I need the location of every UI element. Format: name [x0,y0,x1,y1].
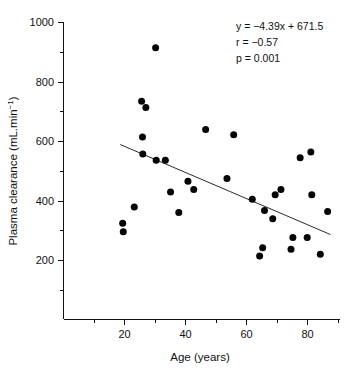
data-point [184,178,191,185]
data-point [261,207,268,214]
data-point [119,220,126,227]
data-point [308,191,315,198]
correlation-coefficient-text: r = −0.57 [236,36,278,48]
data-point [153,157,160,164]
data-point [272,191,279,198]
x-axis-minor-ticks [94,320,338,324]
data-point [162,157,169,164]
y-tick-label-800: 800 [36,76,54,88]
data-point [324,208,331,215]
scatter-plot-figure: 1000 800 600 400 200 20 40 60 80 Age ( [0,0,349,373]
y-axis-title-tail: ) [7,96,19,100]
y-axis-title-base: Plasma clearance (mL.min [7,109,19,245]
plot-canvas: 1000 800 600 400 200 20 40 60 80 Age ( [0,0,349,373]
y-tick-label-200: 200 [36,254,54,266]
x-tick-label-60: 60 [240,328,252,340]
data-point [190,186,197,193]
x-axis-tick-labels: 20 40 60 80 [118,328,313,340]
data-point [142,104,149,111]
axes-group [64,22,341,320]
data-point [269,215,276,222]
data-point [259,244,266,251]
data-point [317,251,324,258]
data-point [297,154,304,161]
x-tick-label-40: 40 [179,328,191,340]
data-point [288,246,295,253]
data-point [175,209,182,216]
x-tick-label-80: 80 [301,328,313,340]
data-points-layer [119,44,331,259]
x-axis-title: Age (years) [170,351,230,363]
statistics-annotation: y = −4.39x + 671.5 r = −0.57 p = 0.001 [236,20,323,64]
x-tick-label-20: 20 [118,328,130,340]
p-value-text: p = 0.001 [236,52,280,64]
y-tick-label-1000: 1000 [30,16,54,28]
data-point [256,253,263,260]
y-axis-major-ticks [58,23,64,261]
data-point [139,151,146,158]
data-point [289,234,296,241]
data-point [139,134,146,141]
data-point [120,228,127,235]
data-point [277,186,284,193]
data-point [152,44,159,51]
data-point [202,126,209,133]
data-point [230,131,237,138]
y-tick-label-600: 600 [36,135,54,147]
data-point [223,175,230,182]
data-point [138,98,145,105]
data-point [304,234,311,241]
data-point [131,203,138,210]
data-point [249,196,256,203]
data-point [167,189,174,196]
y-axis-minor-ticks [60,52,64,290]
data-point [307,148,314,155]
y-axis-tick-labels: 1000 800 600 400 200 [30,16,54,266]
y-axis-title: Plasma clearance (mL.min−1) [6,96,19,245]
y-tick-label-400: 400 [36,195,54,207]
regression-equation-text: y = −4.39x + 671.5 [236,20,323,32]
